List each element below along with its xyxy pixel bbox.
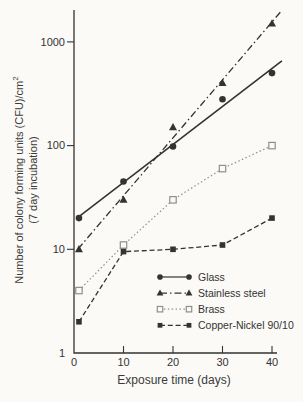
square-open-marker — [186, 306, 191, 311]
axes-frame — [74, 10, 277, 353]
square-filled-marker — [121, 249, 127, 255]
triangle-filled-marker — [186, 289, 193, 295]
circle-filled-marker — [120, 178, 127, 185]
chart-canvas: 1101001000010203040GlassStainless steelB… — [0, 0, 303, 402]
square-filled-marker — [269, 215, 275, 221]
triangle-filled-marker — [120, 196, 128, 203]
square-open-marker — [269, 142, 275, 148]
y-axis-title-line2: (7 day incubation) — [27, 136, 39, 223]
square-filled-marker — [76, 319, 82, 325]
square-open-marker — [219, 165, 225, 171]
x-tick-label: 10 — [117, 356, 129, 368]
y-tick-label: 1000 — [41, 36, 65, 48]
y-tick-label: 1 — [59, 347, 65, 359]
circle-filled-marker — [219, 96, 226, 103]
square-open-marker — [157, 306, 162, 311]
triangle-filled-marker — [169, 123, 177, 130]
line-chart-figure: 1101001000010203040GlassStainless steelB… — [0, 0, 303, 402]
legend-label: Stainless steel — [198, 287, 266, 299]
x-tick-label: 20 — [167, 356, 179, 368]
triangle-filled-marker — [268, 19, 276, 26]
square-filled-marker — [187, 323, 192, 328]
legend-label: Brass — [198, 303, 225, 315]
legend-item-copper-nickel-90-10: Copper-Nickel 90/10 — [158, 319, 294, 331]
legend-item-glass: Glass — [157, 271, 225, 283]
legend-item-stainless-steel: Stainless steel — [157, 287, 266, 299]
x-tick-label: 30 — [216, 356, 228, 368]
square-filled-marker — [220, 242, 226, 248]
x-tick-label: 40 — [266, 356, 278, 368]
x-tick-label: 0 — [71, 356, 77, 368]
series-line — [79, 146, 272, 291]
series-trend-line — [78, 10, 282, 249]
circle-filled-marker — [76, 215, 83, 222]
y-axis-title: Number of colony forming units (CFU)/cm2… — [9, 10, 39, 350]
series-stainless-steel — [75, 10, 282, 252]
circle-filled-marker — [269, 70, 276, 77]
square-open-marker — [120, 242, 126, 248]
circle-filled-marker — [170, 143, 177, 150]
series-copper-nickel-90-10 — [76, 215, 275, 324]
triangle-filled-marker — [75, 245, 83, 252]
circle-filled-marker — [186, 274, 192, 280]
series-brass — [76, 142, 275, 293]
x-axis-title: Exposure time (days) — [74, 373, 274, 387]
y-tick-label: 100 — [47, 139, 65, 151]
circle-filled-marker — [157, 274, 163, 280]
square-open-marker — [76, 287, 82, 293]
legend-label: Glass — [198, 271, 225, 283]
series-trend-line — [78, 61, 282, 217]
y-tick-label: 10 — [53, 243, 65, 255]
legend-item-brass: Brass — [157, 303, 225, 315]
square-filled-marker — [158, 323, 163, 328]
square-filled-marker — [170, 247, 176, 253]
series-glass — [76, 61, 282, 221]
y-axis-title-line1: Number of colony forming units (CFU)/cm — [13, 81, 25, 284]
legend-label: Copper-Nickel 90/10 — [198, 319, 294, 331]
y-axis-title-superscript: 2 — [11, 76, 20, 80]
square-open-marker — [170, 197, 176, 203]
series-line — [79, 218, 272, 322]
